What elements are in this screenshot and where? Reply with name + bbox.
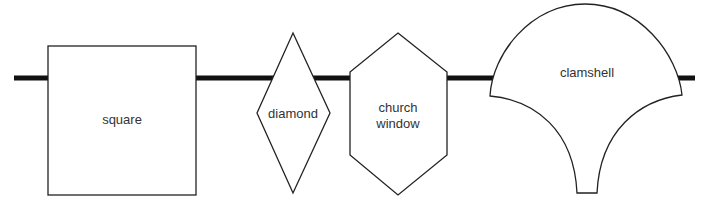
church-window-shape: church window [350,33,447,195]
clamshell-label: clamshell [560,65,614,80]
square-label: square [102,112,142,127]
church-window-label-line-1: church [378,100,417,115]
church-window-label-line-2: window [375,116,420,131]
diamond-shape: diamond [257,33,330,193]
clamshell-shape: clamshell [490,4,682,193]
shapes-diagram: square diamond church window clamshell [0,0,706,210]
clamshell-outline [490,4,682,193]
diamond-label: diamond [268,106,318,121]
square-shape: square [48,46,196,195]
